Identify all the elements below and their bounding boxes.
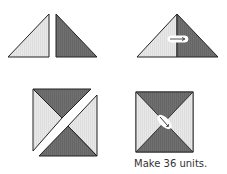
dark-triangle	[56, 14, 97, 57]
quilt-diagram	[0, 0, 227, 174]
press-direction-arrow-icon	[168, 36, 188, 42]
units-caption: Make 36 units.	[134, 158, 207, 169]
step-2-joined-triangle	[137, 14, 218, 57]
step-1-triangles	[8, 14, 97, 57]
light-triangle	[8, 14, 49, 57]
step-3-square-assembly	[33, 89, 97, 156]
step-4-hourglass-unit	[136, 92, 193, 152]
